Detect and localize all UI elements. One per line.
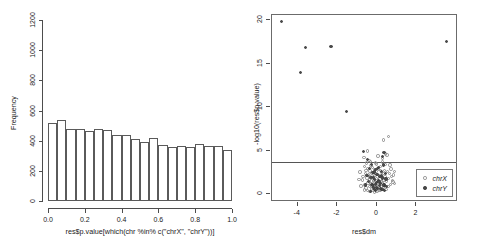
histogram-bar: [140, 142, 149, 201]
volcano-point-chrx: [364, 169, 367, 172]
histogram-x-tick-label: 0.4: [117, 216, 127, 223]
volcano-point-chry: [362, 150, 365, 153]
histogram-y-tick-label: 0: [29, 199, 36, 203]
histogram-x-tick: [122, 209, 123, 213]
histogram-y-tick: [39, 80, 43, 81]
volcano-y-tick: [266, 19, 270, 20]
volcano-point-chrx: [390, 175, 393, 178]
histogram-x-tick: [85, 209, 86, 213]
legend-item-chrx: chrX: [421, 173, 447, 183]
histogram-bar: [57, 120, 66, 201]
volcano-point-chrx: [357, 178, 360, 181]
volcano-x-tick-label: -4: [294, 209, 300, 216]
volcano-point-chry: [299, 71, 302, 74]
volcano-point-chrx: [361, 178, 364, 181]
histogram-y-tick: [39, 111, 43, 112]
volcano-point-chrx: [382, 138, 385, 141]
histogram-y-tick-label: 1200: [29, 12, 36, 28]
volcano-y-tick: [266, 63, 270, 64]
histogram-y-tick-label: 1000: [29, 42, 36, 58]
histogram-bar: [186, 147, 195, 201]
volcano-point-chry: [369, 190, 372, 193]
volcano-point-chrx: [361, 175, 364, 178]
volcano-point-chry: [382, 183, 385, 186]
histogram-bar: [103, 130, 112, 201]
volcano-y-tick-label: 5: [256, 148, 263, 152]
volcano-x-axis-title: res$dm: [352, 228, 376, 235]
volcano-panel: -log10(res$p.value) 05101520 -4-202 chrX…: [244, 0, 488, 245]
volcano-point-chry: [370, 163, 373, 166]
volcano-x-tick-label: 0: [374, 209, 378, 216]
volcano-y-tick-label: 20: [256, 15, 263, 23]
histogram-y-tick-label: 400: [29, 135, 36, 147]
volcano-point-chry: [329, 45, 332, 48]
volcano-point-chrx: [362, 156, 365, 159]
histogram-x-tick-label: 0.2: [80, 216, 90, 223]
histogram-y-tick: [39, 171, 43, 172]
volcano-point-chry: [384, 177, 387, 180]
volcano-point-chry: [382, 163, 385, 166]
volcano-point-chry: [383, 189, 386, 192]
histogram-x-tick: [158, 209, 159, 213]
histogram-x-tick-label: 0.6: [154, 216, 164, 223]
volcano-point-chrx: [358, 170, 361, 173]
filled-circle-icon: [421, 186, 430, 190]
volcano-point-chry: [304, 46, 307, 49]
histogram-bar: [168, 147, 177, 201]
volcano-y-tick-label: 15: [256, 59, 263, 67]
volcano-point-chry: [381, 155, 384, 158]
open-circle-icon: [421, 176, 430, 180]
volcano-point-chry: [379, 187, 382, 190]
histogram-plot-area: [48, 20, 232, 201]
histogram-bar: [131, 139, 140, 201]
volcano-point-chry: [345, 110, 348, 113]
legend-label-chry: chrY: [433, 185, 447, 192]
volcano-x-tick: [376, 202, 377, 206]
volcano-point-chrx: [387, 135, 390, 138]
volcano-point-chrx: [388, 163, 391, 166]
histogram-bar: [177, 146, 186, 201]
volcano-point-chry: [380, 170, 383, 173]
histogram-bar: [66, 129, 75, 201]
histogram-bar: [149, 138, 158, 201]
histogram-bar: [195, 144, 204, 201]
histogram-x-tick: [195, 209, 196, 213]
volcano-x-tick: [415, 202, 416, 206]
volcano-point-chrx: [393, 170, 396, 173]
volcano-plot-area: chrX chrY: [271, 14, 457, 201]
legend-label-chrx: chrX: [433, 175, 447, 182]
histogram-bar: [76, 129, 85, 201]
r-plot-figure: Frequency 020040060080010001200 0.00.20.…: [0, 0, 488, 245]
legend-item-chry: chrY: [421, 183, 447, 193]
volcano-point-chry: [445, 40, 448, 43]
volcano-point-chry: [365, 174, 368, 177]
volcano-point-chry: [372, 176, 375, 179]
volcano-x-tick: [336, 202, 337, 206]
volcano-point-chrx: [391, 180, 394, 183]
histogram-y-tick-label: 200: [29, 165, 36, 177]
histogram-panel: Frequency 020040060080010001200 0.00.20.…: [0, 0, 244, 245]
histogram-bar: [158, 145, 167, 201]
volcano-point-chrx: [385, 153, 388, 156]
volcano-point-chrx: [363, 188, 366, 191]
histogram-y-tick: [39, 50, 43, 51]
volcano-y-tick-label: 10: [256, 102, 263, 110]
volcano-point-chrx: [366, 149, 369, 152]
histogram-bar: [223, 150, 232, 201]
volcano-point-chry: [280, 20, 283, 23]
volcano-point-chrx: [376, 154, 379, 157]
volcano-y-axis-title: -log10(res$p.value): [253, 83, 260, 145]
histogram-bar: [112, 135, 121, 201]
volcano-y-tick: [266, 150, 270, 151]
volcano-y-tick: [266, 106, 270, 107]
histogram-x-axis-title: res$p.value[which(chr %in% c("chrX", "ch…: [66, 228, 215, 235]
volcano-point-chrx: [359, 184, 362, 187]
volcano-x-tick-label: 2: [413, 209, 417, 216]
histogram-y-tick-label: 800: [29, 74, 36, 86]
histogram-x-tick-label: 0.0: [43, 216, 53, 223]
volcano-point-chry: [368, 167, 371, 170]
volcano-y-tick-label: 0: [256, 191, 263, 195]
histogram-y-tick-label: 600: [29, 105, 36, 117]
volcano-x-tick-label: -2: [333, 209, 339, 216]
histogram-x-tick: [48, 209, 49, 213]
